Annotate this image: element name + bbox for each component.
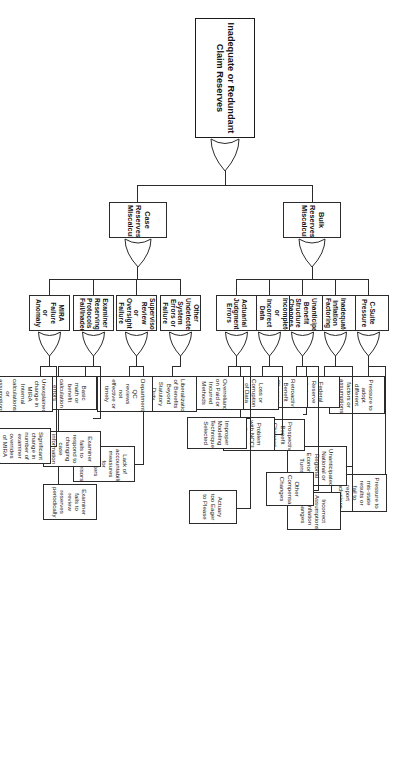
trunk-h bbox=[225, 171, 226, 185]
inflation-stub bbox=[335, 356, 336, 366]
bulk-feeder-2 bbox=[302, 279, 303, 295]
subcause-node-actuary-eager-to-please[interactable]: Actuary too Eager to Please bbox=[189, 490, 237, 524]
top-event-label: Inadequate or Redundant Claim Reserves bbox=[214, 21, 236, 135]
trunk-to-case bbox=[137, 185, 138, 202]
subcause-node-improper-modeling-technique[interactable]: Improper Modeling Technique Selected bbox=[187, 417, 247, 449]
subcause-label-prospective-benefit-changes: Prospective Benefit Changes bbox=[272, 422, 294, 448]
cause-node-examiner-reserving-protocols[interactable]: Examiner Reserving Protocols Fail/Inadeq… bbox=[73, 295, 114, 331]
or-gate-c-suite-pressure bbox=[356, 331, 381, 357]
data-spine bbox=[263, 366, 283, 367]
subcause-label-examiner-overrides-mira: Significant change in number of examiner… bbox=[0, 431, 45, 461]
subcause-label-actuary-eager-to-please: Actuary too Eager to Please bbox=[202, 493, 224, 521]
inflation-feed-0 bbox=[324, 366, 325, 376]
inflation-drop-1 bbox=[347, 466, 353, 467]
branch-node-case-reserves[interactable]: Case Reserves Miscalculation bbox=[109, 202, 167, 238]
cause-label-examiner-reserving-protocols: Examiner Reserving Protocols Fail/Inadeq… bbox=[78, 298, 109, 328]
data-feed-0 bbox=[262, 366, 263, 376]
trunk-v bbox=[138, 185, 313, 186]
or-gate-bulk-reserves bbox=[297, 238, 327, 268]
rotated-diagram-wrapper: Inadequate or Redundant Claim Reserves B… bbox=[0, 0, 393, 771]
c-suite-stub bbox=[368, 356, 369, 366]
system-errors-stub bbox=[180, 356, 181, 366]
subcause-label-liberalization-of-benefits: Liberalization of Benefits Beyond Statut… bbox=[151, 379, 187, 409]
cause-node-supervisory-review-failure[interactable]: Supervisory Review or Oversight Failure bbox=[116, 295, 157, 331]
benefit-stub bbox=[302, 356, 303, 366]
supervisory-stub bbox=[136, 356, 137, 366]
bulk-feeder-3 bbox=[269, 279, 270, 295]
case-gate-stub bbox=[137, 267, 138, 279]
cause-node-mira-failure[interactable]: MIRA Failure or Anomaly bbox=[29, 295, 70, 331]
cause-label-mira-failure: MIRA Failure or Anomaly bbox=[34, 298, 65, 328]
case-spine bbox=[50, 279, 181, 280]
cause-label-c-suite-pressure: C-Suite Pressure bbox=[361, 298, 377, 328]
or-gate-inflation-factoring bbox=[323, 331, 348, 357]
inflation-drop-2 bbox=[341, 511, 353, 512]
subcause-node-unexplained-mira-change[interactable]: Unexplained change in MIRA Internal calc… bbox=[0, 376, 53, 412]
benefit-feed-2 bbox=[318, 366, 319, 490]
cause-node-other-system-errors[interactable]: Other Undetected System Errors or Failur… bbox=[160, 295, 201, 331]
subcause-node-examiner-fails-review[interactable]: Examiner fails to review reserves period… bbox=[43, 484, 97, 520]
subcause-label-examiner-fails-review: Examiner fails to review reserves period… bbox=[52, 487, 88, 517]
inflation-feed-2 bbox=[352, 366, 353, 511]
bulk-feeder-1 bbox=[335, 279, 336, 295]
actuarial-stub bbox=[236, 356, 237, 366]
mira-drop-1 bbox=[51, 446, 57, 447]
data-drop-1 bbox=[275, 434, 283, 435]
case-feeder-2 bbox=[93, 279, 94, 295]
bulk-feeder-4 bbox=[236, 279, 237, 295]
cause-label-other-system-errors: Other Undetected System Errors or Failur… bbox=[161, 298, 200, 328]
branch-node-bulk-reserves[interactable]: Bulk Reserves Miscalculation bbox=[283, 202, 341, 238]
supervisory-drop-1 bbox=[135, 464, 144, 465]
case-feeder-1 bbox=[136, 279, 137, 295]
subcause-label-overreliance-paid-incurred: Overreliance on Paid or Incurred Methods bbox=[201, 379, 230, 407]
mira-spine bbox=[41, 366, 57, 367]
cause-label-inflation-factoring: Inadequate Inflation Factoring bbox=[324, 298, 347, 328]
bulk-gate-stub bbox=[312, 267, 313, 279]
benefit-feed-0 bbox=[296, 366, 297, 376]
actuarial-feed-2 bbox=[250, 366, 251, 508]
mira-feed-1 bbox=[56, 366, 57, 446]
subcause-node-department-qc-reviews[interactable]: Department QC reviews not effective or t… bbox=[97, 376, 153, 412]
benefit-drop-1 bbox=[303, 414, 307, 415]
top-event-node[interactable]: Inadequate or Redundant Claim Reserves bbox=[195, 18, 255, 138]
subcause-node-examiner-overrides-mira[interactable]: Significant change in number of examiner… bbox=[0, 428, 51, 464]
branch-label-bulk-reserves: Bulk Reserves Miscalculation bbox=[299, 205, 325, 235]
bulk-feeder-0 bbox=[368, 279, 369, 295]
examiner-riser-2 bbox=[59, 366, 101, 367]
or-gate-top-event bbox=[209, 138, 241, 172]
or-gate-mira-failure bbox=[37, 331, 62, 357]
subcause-label-other-compensability-changes: Other Compensability Changes bbox=[279, 475, 301, 503]
subcause-label-department-qc-reviews: Department QC reviews not effective or t… bbox=[103, 379, 146, 409]
c-suite-spine bbox=[368, 366, 386, 367]
system-errors-spine bbox=[173, 366, 181, 367]
subcause-node-other-compensability-changes[interactable]: Other Compensability Changes bbox=[266, 472, 314, 506]
fault-tree-canvas: Inadequate or Redundant Claim Reserves B… bbox=[0, 0, 393, 771]
branch-label-case-reserves: Case Reserves Miscalculation bbox=[125, 205, 151, 235]
or-gate-benefit-structure-changes bbox=[290, 331, 315, 357]
cause-node-actuarial-judgment-errors[interactable]: Actuarial Judgment Errors bbox=[216, 295, 257, 331]
c-suite-feed-0 bbox=[368, 366, 369, 376]
or-gate-other-system-errors bbox=[168, 331, 193, 357]
supervisory-spine bbox=[130, 366, 144, 367]
cause-label-benefit-structure-changes: Unanticipated Benefit Structure Changes bbox=[287, 298, 318, 328]
or-gate-supervisory-review-failure bbox=[124, 331, 149, 357]
trunk-to-bulk bbox=[312, 185, 313, 202]
examiner-stub bbox=[93, 356, 94, 366]
case-feeder-0 bbox=[180, 279, 181, 295]
subcause-label-pressure-adopt-factors: Pressure to adopt different factors or a… bbox=[339, 379, 375, 411]
subcause-node-examiner-fails-respond[interactable]: Examiner fails to respond to changing ca… bbox=[43, 431, 101, 467]
mira-stub bbox=[49, 356, 50, 366]
supervisory-feed-0 bbox=[129, 366, 130, 376]
examiner-feed-1 bbox=[100, 366, 101, 418]
benefit-drop-2 bbox=[314, 490, 319, 491]
data-feed-1 bbox=[282, 366, 283, 434]
or-gate-case-reserves bbox=[123, 238, 153, 268]
data-stub bbox=[269, 356, 270, 366]
examiner-drop-1 bbox=[93, 418, 101, 419]
mira-feed-0 bbox=[40, 366, 41, 376]
or-gate-actuarial-judgment-errors bbox=[224, 331, 249, 357]
actuarial-feed-0 bbox=[228, 366, 229, 376]
or-gate-incorrect-data-used bbox=[257, 331, 282, 357]
inflation-spine bbox=[325, 366, 353, 367]
or-gate-examiner-reserving-protocols bbox=[81, 331, 106, 357]
